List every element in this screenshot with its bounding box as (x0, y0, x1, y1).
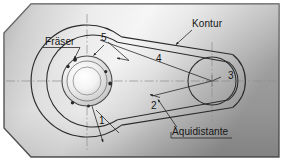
callout-1: 1 (99, 116, 105, 126)
figure-canvas: Fräser Kontur Äquidistante 1 2 3 4 5 (0, 0, 283, 161)
technical-diagram-svg (0, 0, 283, 161)
cutter-inner-circle (73, 67, 101, 95)
callout-4: 4 (156, 54, 162, 64)
callout-3: 3 (228, 71, 234, 81)
label-fraeser: Fräser (45, 37, 75, 47)
callout-2: 2 (151, 101, 157, 111)
label-kontur: Kontur (192, 19, 222, 29)
callout-5: 5 (101, 33, 107, 43)
label-aequidistante: Äquidistante (172, 127, 228, 137)
